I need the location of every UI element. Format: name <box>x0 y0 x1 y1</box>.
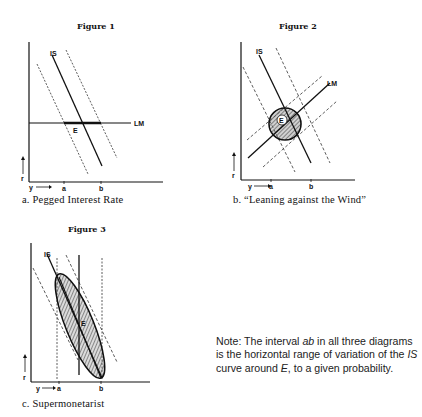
b-label: b <box>309 183 313 190</box>
note-text: Note: The interval ab in all three diagr… <box>216 335 422 375</box>
figure-3-diagram: IS E y r a b <box>23 243 150 393</box>
e-label: E <box>279 117 284 124</box>
is-label: IS <box>50 50 57 57</box>
a-label: a <box>269 183 273 190</box>
r-label: r <box>21 175 24 182</box>
figure-2-diagram: E IS LM y r a b <box>232 42 355 191</box>
e-label: E <box>81 320 86 327</box>
lm-label: LM <box>134 120 144 127</box>
is-label: IS <box>256 48 263 55</box>
e-label: E <box>73 127 78 134</box>
is-label: IS <box>44 251 51 258</box>
is-curve <box>259 55 311 163</box>
y-label: y <box>248 183 252 191</box>
lm-curve <box>248 83 330 158</box>
a-label: a <box>57 385 61 392</box>
figure-1-caption: a. Pegged Interest Rate <box>22 194 123 205</box>
figure-3-caption: c. Supermonetarist <box>22 398 104 409</box>
b-label: b <box>99 385 103 392</box>
figure-2-caption: b. “Leaning against the Wind” <box>233 194 366 205</box>
y-label: y <box>36 385 40 393</box>
r-label: r <box>232 172 235 179</box>
b-label: b <box>99 185 103 192</box>
y-label: y <box>29 184 33 192</box>
figure-1-diagram: IS LM E y r a b <box>21 42 163 192</box>
lm-label: LM <box>327 80 337 87</box>
r-label: r <box>23 374 26 381</box>
a-label: a <box>62 185 66 192</box>
